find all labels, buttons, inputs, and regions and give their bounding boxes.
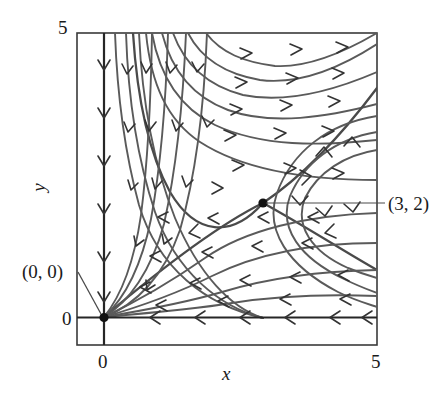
y-axis-label: y <box>29 183 48 191</box>
x-axis-min-tick-label: 0 <box>98 352 108 371</box>
y-axis-max-tick-label: 5 <box>58 18 68 37</box>
figure-background <box>0 0 447 398</box>
equilibrium-point-origin[interactable] <box>99 313 108 322</box>
annotation-label-origin: (0, 0) <box>22 262 63 281</box>
annotation-label-saddle: (3, 2) <box>388 194 429 213</box>
x-axis-label: x <box>222 364 230 383</box>
x-axis-max-tick-label: 5 <box>371 352 381 371</box>
y-axis-min-tick-label: 0 <box>62 309 72 328</box>
phase-portrait-figure <box>0 0 447 398</box>
